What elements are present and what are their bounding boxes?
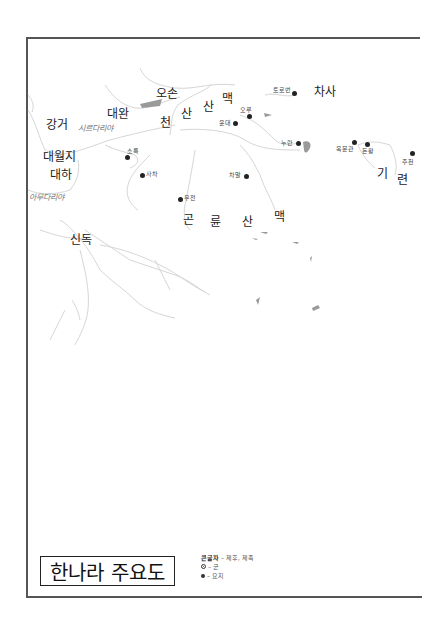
map-legend: 큰글자 – 제후, 제족 – 군 – 요지: [201, 553, 254, 580]
legend-row-gun: – 군: [201, 562, 254, 571]
place-dot-yundae: [233, 121, 238, 126]
place-dot-turpan: [292, 91, 297, 96]
river-lines: [0, 0, 437, 635]
mountain-label-tianshan-1: 천: [160, 117, 171, 129]
region-label-ganggeo: 강거: [46, 119, 68, 131]
mountain-label-tianshan-3: 산: [203, 101, 214, 113]
legend-big-text-label: 큰글자: [201, 553, 219, 562]
region-label-daewan: 대완: [107, 108, 129, 120]
place-label-sacha: 사차: [146, 171, 158, 177]
mountain-label-kunlun-4: 맥: [274, 211, 285, 223]
circled-dot-icon: [201, 564, 206, 569]
mountain-label-kunlun-2: 륜: [210, 216, 221, 228]
place-dot-soreuk: [125, 155, 130, 160]
legend-big-text-desc: – 제후, 제족: [221, 553, 254, 562]
place-label-donhwang: 돈황: [362, 148, 374, 154]
place-label-nuran: 누란: [281, 140, 293, 146]
place-label-ujeon: 우전: [184, 195, 196, 201]
lake-bosten: [264, 113, 272, 117]
map-title: 한나라 주요도: [40, 556, 175, 586]
filled-dot-icon: [201, 574, 205, 578]
lake-lop-nur: [303, 141, 311, 152]
place-dot-chamal: [244, 174, 249, 179]
legend-row-big-text: 큰글자 – 제후, 제족: [201, 553, 254, 562]
mountain-label-kunlun-3: 산: [242, 216, 253, 228]
mountain-label-qilian-2: 련: [397, 174, 408, 186]
mountain-label-kunlun-1: 곤: [183, 214, 194, 226]
region-label-daeha: 대하: [50, 169, 72, 181]
region-label-chasa: 차사: [314, 86, 336, 98]
river-label-amu-darya: 아무다리야: [29, 194, 64, 202]
mountain-label-tianshan-2: 산: [181, 108, 192, 120]
region-label-oson: 오손: [156, 88, 178, 100]
place-label-okmungwan: 옥문관: [336, 146, 354, 152]
place-dot-sacha: [140, 173, 145, 178]
place-label-chamal: 차말: [229, 172, 241, 178]
place-label-turpan: 토로번: [273, 87, 291, 93]
place-dot-oru: [247, 114, 252, 119]
region-label-daewolji: 대월지: [43, 151, 76, 163]
region-label-sindok: 신독: [70, 234, 92, 246]
place-label-jucheon: 주천: [402, 159, 414, 165]
place-dot-nuran: [296, 141, 301, 146]
mountain-label-qilian-1: 기: [377, 168, 388, 180]
river-label-syr-darya: 시르다리야: [78, 125, 113, 133]
place-label-oru: 오루: [240, 107, 252, 113]
place-dot-ujeon: [178, 197, 183, 202]
legend-row-yoji: – 요지: [201, 571, 254, 580]
place-label-soreuk: 소륵: [127, 148, 139, 154]
place-dot-jucheon: [410, 151, 415, 156]
legend-yoji-desc: – 요지: [207, 571, 224, 580]
mountain-label-tianshan-4: 맥: [222, 93, 233, 105]
legend-gun-desc: – 군: [208, 562, 219, 571]
place-label-yundae: 윤대: [219, 120, 231, 126]
